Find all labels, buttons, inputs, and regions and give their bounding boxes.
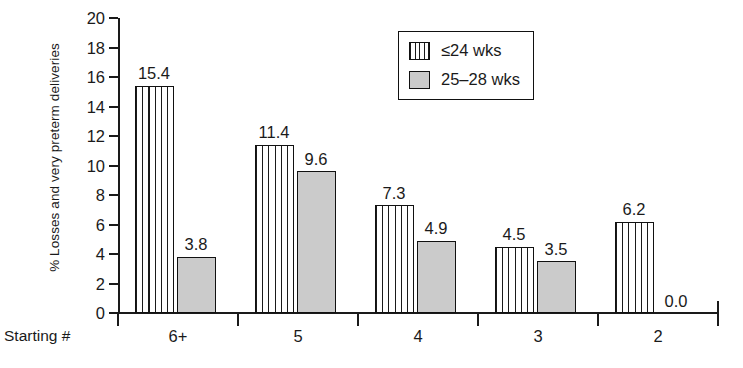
y-tick-10 — [109, 165, 118, 167]
legend: ≤24 wks 25–28 wks — [398, 31, 534, 100]
bar-value-label-2-series0: 6.2 — [623, 201, 646, 218]
y-tick-20 — [109, 17, 118, 19]
x-separator-5 — [717, 313, 719, 326]
x-axis-title: Starting # — [4, 327, 70, 345]
y-tick-label-4: 4 — [96, 246, 105, 263]
legend-label-0: ≤24 wks — [441, 42, 501, 59]
y-tick-label-16: 16 — [87, 69, 105, 86]
y-axis-line — [118, 18, 120, 314]
bar-6+-series1 — [177, 257, 216, 313]
y-tick-label-18: 18 — [87, 39, 105, 56]
bar-5-series1 — [297, 171, 336, 313]
x-category-label-5: 5 — [293, 327, 302, 346]
x-category-label-2: 2 — [653, 327, 662, 346]
bar-3-series0 — [495, 247, 534, 313]
bar-value-label-5-series1: 9.6 — [305, 151, 328, 168]
x-separator-3 — [477, 313, 479, 326]
legend-label-1: 25–28 wks — [441, 71, 520, 88]
y-tick-8 — [109, 194, 118, 196]
x-separator-4 — [597, 313, 599, 326]
x-separator-1 — [237, 313, 239, 326]
y-tick-label-0: 0 — [96, 305, 105, 322]
y-axis-title: % Losses and very preterm deliveries — [47, 8, 62, 308]
bar-value-label-3-series0: 4.5 — [503, 226, 526, 243]
y-tick-18 — [109, 47, 118, 49]
legend-item-1: 25–28 wks — [409, 68, 520, 91]
y-tick-label-10: 10 — [87, 157, 105, 174]
x-category-label-4: 4 — [413, 327, 422, 346]
y-tick-label-14: 14 — [87, 98, 105, 115]
gray-swatch-icon — [409, 71, 430, 89]
bar-value-label-3-series1: 3.5 — [545, 241, 568, 258]
y-tick-6 — [109, 224, 118, 226]
y-tick-label-12: 12 — [87, 128, 105, 145]
y-tick-2 — [109, 283, 118, 285]
y-tick-label-2: 2 — [96, 275, 105, 292]
bar-4-series0 — [375, 205, 414, 313]
y-tick-4 — [109, 253, 118, 255]
bar-value-label-4-series1: 4.9 — [425, 220, 448, 237]
legend-item-0: ≤24 wks — [409, 39, 520, 62]
striped-swatch-icon — [409, 42, 430, 60]
y-tick-label-20: 20 — [87, 10, 105, 27]
bar-chart: % Losses and very preterm deliveries Sta… — [0, 0, 743, 368]
bar-value-label-6+-series0: 15.4 — [138, 65, 170, 82]
x-separator-0 — [117, 313, 119, 326]
y-tick-label-8: 8 — [96, 187, 105, 204]
bar-3-series1 — [537, 261, 576, 313]
bar-value-label-6+-series1: 3.8 — [185, 236, 208, 253]
y-tick-12 — [109, 135, 118, 137]
bar-value-label-2-series1: 0.0 — [665, 293, 688, 310]
bar-5-series0 — [255, 145, 294, 313]
x-category-label-6+: 6+ — [169, 327, 188, 346]
x-category-label-3: 3 — [533, 327, 542, 346]
bar-2-series0 — [615, 222, 654, 313]
bar-value-label-5-series0: 11.4 — [259, 124, 290, 141]
y-tick-label-6: 6 — [96, 216, 105, 233]
y-tick-16 — [109, 76, 118, 78]
bar-value-label-4-series0: 7.3 — [383, 185, 406, 202]
bar-4-series1 — [417, 241, 456, 313]
bar-6+-series0 — [135, 86, 174, 313]
y-tick-14 — [109, 106, 118, 108]
x-separator-2 — [357, 313, 359, 326]
